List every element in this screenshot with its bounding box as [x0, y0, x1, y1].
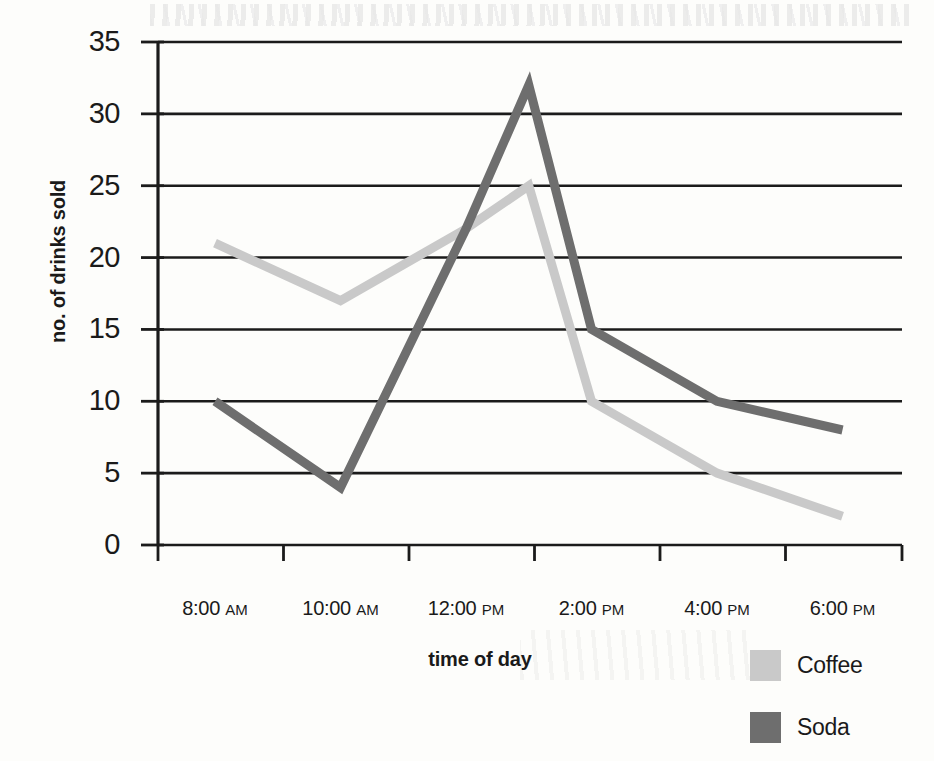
x-axis-title: time of day — [330, 648, 630, 671]
x-tick-meridiem: AM — [225, 601, 248, 618]
y-tick-label: 10 — [62, 386, 120, 415]
x-tick-meridiem: PM — [853, 601, 876, 618]
legend-label: Coffee — [797, 654, 863, 677]
y-tick-label: 0 — [62, 530, 120, 559]
x-tick-time: 12:00 — [428, 597, 482, 619]
x-tick-meridiem: PM — [602, 601, 625, 618]
tickmarks-group — [141, 42, 902, 561]
line-chart: 35302520151050 8:00 AM10:00 AM12:00 PM2:… — [0, 0, 934, 761]
legend-swatch-icon — [750, 650, 781, 681]
y-axis-title: no. of drinks sold — [47, 152, 70, 372]
plot-area — [0, 0, 934, 761]
x-tick-meridiem: AM — [356, 601, 379, 618]
y-tick-label: 25 — [62, 171, 120, 200]
y-tick-label: 30 — [62, 99, 120, 128]
series-group — [215, 85, 843, 516]
y-tick-label: 35 — [62, 27, 120, 56]
x-tick-label: 6:00 PM — [768, 598, 918, 620]
y-tick-label: 20 — [62, 243, 120, 272]
x-tick-time: 8:00 — [182, 597, 225, 619]
legend-swatch-icon — [750, 712, 781, 743]
gridlines-group — [158, 42, 902, 545]
x-tick-meridiem: PM — [727, 601, 750, 618]
y-tick-label: 15 — [62, 314, 120, 343]
x-tick-meridiem: PM — [482, 601, 505, 618]
legend-label: Soda — [797, 716, 850, 739]
legend-item-coffee: Coffee — [750, 650, 863, 681]
x-tick-time: 2:00 — [559, 597, 602, 619]
x-tick-time: 10:00 — [302, 597, 356, 619]
x-tick-time: 4:00 — [684, 597, 727, 619]
legend-item-soda: Soda — [750, 712, 850, 743]
x-tick-time: 6:00 — [810, 597, 853, 619]
y-tick-label: 5 — [62, 458, 120, 487]
